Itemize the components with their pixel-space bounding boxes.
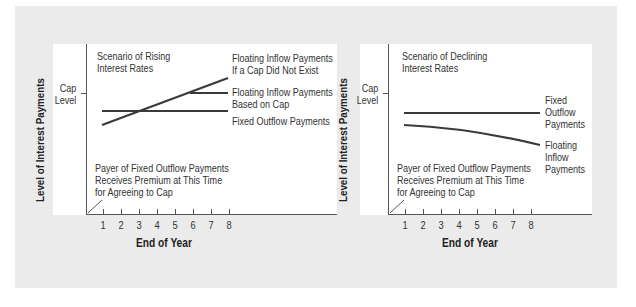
premium-note-line: Receives Premium at This Time (397, 174, 531, 186)
right-y-axis-label: Level of Interest Payments (337, 78, 349, 202)
cap-label-line: Level (356, 94, 378, 106)
scenario-title-line: Interest Rates (402, 62, 487, 74)
annotation-line: Outflow (545, 106, 585, 118)
left-data-lines (102, 78, 228, 125)
right-premium-note: Payer of Fixed Outflow Payments Receives… (397, 162, 531, 198)
x-tick-label: 1 (98, 219, 108, 231)
left-x-axis-label: End of Year (136, 236, 192, 250)
right-cap-label: Cap Level (356, 82, 378, 106)
x-tick-label: 8 (526, 219, 536, 231)
x-tick-label: 2 (116, 219, 126, 231)
left-y-axis-label: Level of Interest Payments (34, 78, 46, 202)
annotation-line: Payments (545, 118, 585, 130)
scenario-title-line: Scenario of Declining (402, 50, 487, 62)
right-x-axis-label: End of Year (442, 236, 498, 250)
floating-no-cap-annotation: Floating Inflow Payments If a Cap Did No… (232, 52, 333, 76)
premium-note-line: for Agreeing to Cap (397, 186, 531, 198)
x-tick-label: 7 (206, 219, 216, 231)
annotation-line: Floating Inflow Payments (232, 86, 333, 98)
right-floating-inflow-annotation: Floating Inflow Payments (545, 139, 585, 175)
fixed-outflow-annotation: Fixed Outflow Payments (232, 115, 330, 127)
floating-inflow-curve (404, 125, 540, 145)
cap-label-line: Cap (54, 82, 76, 94)
right-data-lines (404, 113, 540, 145)
x-tick-label: 6 (490, 219, 500, 231)
left-premium-note: Payer of Fixed Outflow Payments Receives… (95, 162, 229, 198)
annotation-line: Inflow (545, 151, 585, 163)
premium-note-line: Payer of Fixed Outflow Payments (397, 162, 531, 174)
left-cap-label: Cap Level (54, 82, 76, 106)
annotation-line: Floating (545, 139, 585, 151)
x-tick-label: 2 (418, 219, 428, 231)
premium-note-line: Receives Premium at This Time (95, 174, 229, 186)
cap-label-line: Cap (356, 82, 378, 94)
x-tick-label: 5 (170, 219, 180, 231)
premium-note-line: for Agreeing to Cap (95, 186, 229, 198)
annotation-line: Fixed (545, 94, 585, 106)
x-tick-label: 6 (188, 219, 198, 231)
scenario-title-line: Scenario of Rising (97, 50, 170, 62)
right-scenario-title: Scenario of Declining Interest Rates (402, 50, 487, 74)
premium-note-line: Payer of Fixed Outflow Payments (95, 162, 229, 174)
x-tick-label: 8 (224, 219, 234, 231)
x-tick-label: 3 (134, 219, 144, 231)
scenario-title-line: Interest Rates (97, 62, 170, 74)
annotation-line: Based on Cap (232, 98, 333, 110)
left-scenario-title: Scenario of Rising Interest Rates (97, 50, 170, 74)
floating-capped-annotation: Floating Inflow Payments Based on Cap (232, 86, 333, 110)
annotation-line: Floating Inflow Payments (232, 52, 333, 64)
x-tick-label: 7 (508, 219, 518, 231)
x-tick-label: 4 (152, 219, 162, 231)
cap-label-line: Level (54, 94, 76, 106)
x-tick-label: 3 (436, 219, 446, 231)
right-fixed-outflow-annotation: Fixed Outflow Payments (545, 94, 585, 130)
chart-lines (0, 0, 636, 307)
x-tick-label: 4 (454, 219, 464, 231)
annotation-line: Payments (545, 163, 585, 175)
x-tick-label: 5 (472, 219, 482, 231)
annotation-line: If a Cap Did Not Exist (232, 64, 333, 76)
floating-no-cap-line (102, 78, 228, 125)
x-tick-label: 1 (400, 219, 410, 231)
